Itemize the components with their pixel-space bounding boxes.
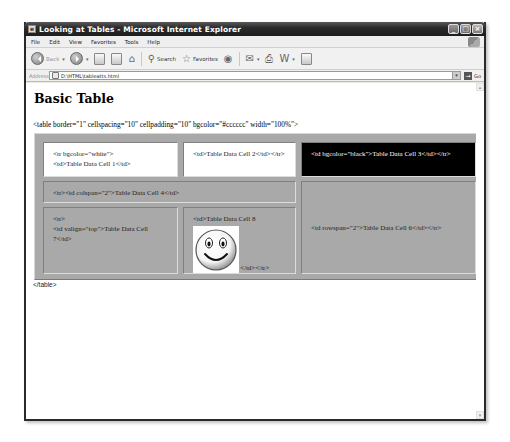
forward-dropdown-icon[interactable]: ▾ — [86, 56, 89, 62]
maximize-button[interactable]: □ — [460, 24, 471, 34]
menu-tools[interactable]: Tools — [125, 39, 139, 45]
menu-bar: File Edit View Favorites Tools Help — [26, 36, 484, 48]
forward-arrow-icon[interactable] — [70, 52, 83, 65]
table-cell-1: <tr bgcolor="white"> <td>Table Data Cell… — [43, 142, 178, 177]
cell1-line2: <td>Table Data Cell 1</td> — [53, 159, 168, 169]
vertical-scrollbar[interactable]: ▴ ▾ — [476, 83, 484, 419]
menu-view[interactable]: View — [69, 39, 82, 45]
menu-favorites[interactable]: Favorites — [91, 39, 116, 45]
edit-word-icon[interactable]: W — [279, 54, 289, 64]
smiley-face-image — [193, 226, 239, 273]
ie-app-icon: e — [28, 25, 36, 33]
back-arrow-icon[interactable] — [31, 52, 44, 65]
mail-icon[interactable]: ✉ — [246, 54, 254, 64]
favorites-button-label[interactable]: Favorites — [193, 56, 218, 62]
cell3-text: <td bgcolor="black">Table Data Cell 3</t… — [311, 149, 466, 159]
minimize-button[interactable]: _ — [448, 24, 459, 34]
refresh-icon[interactable] — [111, 53, 122, 65]
toolbar: Back ▾ ▾ ⌂ ⚲ Search ☆ Favorites ◉ ✉ ▾ ⎙ … — [26, 48, 484, 70]
address-url[interactable]: D:\HTML\tableatts.html — [61, 73, 452, 79]
search-button-label[interactable]: Search — [157, 56, 176, 62]
home-icon[interactable]: ⌂ — [128, 54, 134, 64]
menu-file[interactable]: File — [31, 39, 40, 45]
table-cell-3: <td bgcolor="black">Table Data Cell 3</t… — [301, 142, 476, 177]
address-label: Address — [29, 73, 49, 79]
browser-window: e Looking at Tables - Microsoft Internet… — [24, 22, 486, 421]
scroll-down-icon[interactable]: ▾ — [476, 411, 484, 419]
window-title: Looking at Tables - Microsoft Internet E… — [39, 25, 448, 34]
page-icon — [52, 72, 59, 79]
edit-dropdown-icon[interactable]: ▾ — [292, 56, 295, 62]
toolbar-separator — [141, 52, 142, 66]
stop-icon[interactable] — [94, 53, 105, 65]
menu-help[interactable]: Help — [147, 39, 160, 45]
scroll-up-icon[interactable]: ▴ — [476, 83, 484, 91]
cell7-line2: <td valign="top">Table Data Cell 7</td> — [53, 224, 168, 244]
table-open-code: <table border="1" cellspacing="10" cellp… — [33, 120, 298, 129]
address-bar: Address D:\HTML\tableatts.html ▾ → Go — [26, 70, 484, 82]
table-cell-2: <td>Table Data Cell 2</td></tr> — [183, 142, 296, 177]
table-cell-6: <td rowspan="2">Table Data Cell 6</td></… — [301, 181, 476, 274]
page-heading: Basic Table — [34, 91, 114, 106]
cell1-line1: <tr bgcolor="white"> — [53, 149, 168, 159]
table-cell-4: <tr><td colspan="2">Table Data Cell 4</t… — [43, 181, 296, 203]
demo-table: <tr bgcolor="white"> <td>Table Data Cell… — [34, 133, 483, 280]
address-dropdown-icon[interactable]: ▾ — [452, 72, 460, 79]
back-button-label[interactable]: Back — [46, 56, 59, 62]
mail-dropdown-icon[interactable]: ▾ — [257, 56, 260, 62]
table-cell-7: <tr> <td valign="top">Table Data Cell 7<… — [43, 207, 178, 274]
history-icon[interactable]: ◉ — [224, 54, 233, 64]
go-label: Go — [474, 73, 481, 79]
page-content: Basic Table <table border="1" cellspacin… — [26, 83, 484, 419]
print-icon[interactable]: ⎙ — [265, 54, 273, 64]
go-arrow-icon: → — [464, 72, 472, 80]
cell6-text: <td rowspan="2">Table Data Cell 6</td></… — [311, 223, 441, 233]
cell8-text: <td>Table Data Cell 8 — [193, 214, 286, 224]
cell7-line1: <tr> — [53, 214, 168, 224]
back-dropdown-icon[interactable]: ▾ — [62, 56, 65, 62]
cell2-text: <td>Table Data Cell 2</td></tr> — [193, 149, 286, 159]
windows-logo-icon — [468, 37, 480, 47]
favorites-star-icon[interactable]: ☆ — [182, 54, 191, 64]
table-cell-8: <td>Table Data Cell 8 — [183, 207, 296, 274]
toolbar-separator — [239, 52, 240, 66]
title-bar[interactable]: e Looking at Tables - Microsoft Internet… — [24, 22, 486, 36]
table-close-code: </table> — [33, 281, 57, 288]
window-controls: _ □ × — [448, 24, 483, 34]
menu-edit[interactable]: Edit — [49, 39, 60, 45]
search-icon[interactable]: ⚲ — [148, 54, 155, 64]
discuss-icon[interactable] — [301, 53, 312, 65]
close-button[interactable]: × — [472, 24, 483, 34]
cell8-close: </td></tr> — [240, 263, 269, 273]
address-input[interactable]: D:\HTML\tableatts.html ▾ — [49, 71, 461, 80]
cell4-text: <tr><td colspan="2">Table Data Cell 4</t… — [53, 188, 286, 198]
go-button[interactable]: → Go — [464, 72, 481, 80]
